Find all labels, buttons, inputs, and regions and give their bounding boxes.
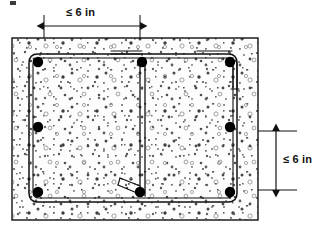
bar-mid-left: [33, 122, 43, 132]
cross-section-diagram: [0, 0, 319, 235]
right-dimension-label: ≤ 6 in: [283, 153, 312, 165]
bar-bottom-right: [225, 187, 235, 197]
bar-top-left: [33, 57, 43, 67]
top-dimension-label: ≤ 6 in: [66, 6, 95, 18]
figure-canvas: ≤ 6 in ≤ 6 in: [0, 0, 319, 235]
bar-bottom-center: [135, 187, 145, 197]
bar-top-center: [137, 57, 147, 67]
crop-mark-top-left: [10, 1, 16, 5]
bar-bottom-left: [33, 187, 43, 197]
bar-top-right: [225, 57, 235, 67]
bar-mid-right: [225, 122, 235, 132]
